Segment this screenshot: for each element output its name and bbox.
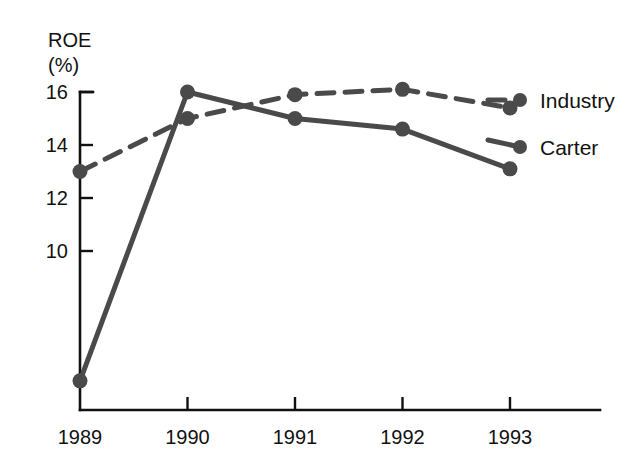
- data-series-group: [73, 82, 518, 389]
- data-point-industry-1991: [288, 87, 303, 102]
- roe-line-chart: ROE (%) 10121416 19891990199119921993 In…: [0, 0, 635, 466]
- y-tick-label-16: 16: [46, 81, 68, 103]
- chart-canvas: ROE (%) 10121416 19891990199119921993 In…: [0, 0, 635, 466]
- legend: Industry Carter: [488, 89, 615, 159]
- legend-label-industry: Industry: [540, 89, 615, 112]
- y-tick-label-10: 10: [46, 240, 68, 262]
- data-point-carter-1989: [73, 373, 88, 388]
- axes: [80, 92, 600, 410]
- y-axis-title: ROE (%): [48, 29, 91, 76]
- data-point-carter-1991: [288, 111, 303, 126]
- y-tick-label-14: 14: [46, 134, 68, 156]
- legend-marker-carter: [513, 140, 527, 154]
- x-axis-ticks: [188, 397, 511, 410]
- x-axis-tick-labels: 19891990199119921993: [58, 426, 533, 448]
- x-tick-label-1991: 1991: [273, 426, 318, 448]
- data-point-industry-1989: [73, 164, 88, 179]
- legend-label-carter: Carter: [540, 136, 598, 159]
- x-tick-label-1992: 1992: [380, 426, 425, 448]
- legend-marker-industry: [513, 93, 527, 107]
- x-tick-label-1989: 1989: [58, 426, 103, 448]
- data-point-carter-1993: [503, 161, 518, 176]
- data-point-industry-1992: [395, 82, 410, 97]
- data-point-carter-1992: [395, 122, 410, 137]
- data-point-carter-1990: [180, 85, 195, 100]
- y-axis-tick-labels: 10121416: [46, 81, 68, 262]
- y-axis-title-line1: ROE: [48, 29, 91, 51]
- series-line-carter: [80, 92, 510, 381]
- x-tick-label-1990: 1990: [165, 426, 210, 448]
- y-axis-title-line2: (%): [48, 54, 79, 76]
- x-tick-label-1993: 1993: [488, 426, 533, 448]
- y-tick-label-12: 12: [46, 187, 68, 209]
